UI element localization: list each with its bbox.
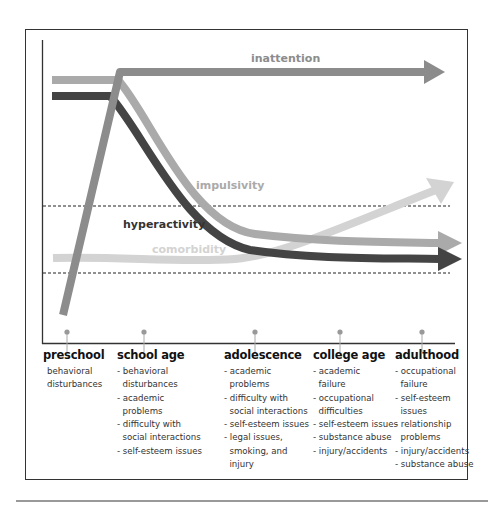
marker-adolescence — [252, 329, 257, 334]
stage-preschool: preschool behavioral disturbances — [43, 348, 105, 392]
stage-item: - injury/accidents — [395, 445, 473, 458]
stage-item: problems — [117, 405, 202, 418]
stage-item: - difficulty with — [224, 392, 309, 405]
stage-item: failure — [395, 378, 473, 391]
stage-item: problems — [224, 378, 309, 391]
stage-item: problems — [395, 431, 473, 444]
impulsivity-label: impulsivity — [196, 179, 264, 192]
stage-title: preschool — [43, 348, 105, 362]
stage-item: - self-esteem issues — [224, 418, 309, 431]
stage-title: adulthood — [395, 348, 473, 362]
stage-item: - relationship — [395, 418, 473, 431]
stage-item: - difficulty with — [117, 418, 202, 431]
stage-item: smoking, and — [224, 445, 309, 458]
bottom-divider — [16, 500, 488, 502]
stage-item: - academic — [224, 365, 309, 378]
stage-item: - occupational — [313, 392, 398, 405]
marker-preschool — [64, 329, 69, 334]
stage-item: disturbances — [117, 378, 202, 391]
stage-item: social interactions — [117, 431, 202, 444]
stage-item: - legal issues, — [224, 431, 309, 444]
comorbidity-label: comorbidity — [152, 243, 226, 256]
stage-item: - substance abuse — [313, 431, 398, 444]
stage-item: - substance abuse — [395, 458, 473, 471]
stage-item: - injury/accidents — [313, 445, 398, 458]
stage-title: adolescence — [224, 348, 309, 362]
stage-title: college age — [313, 348, 398, 362]
stage-item: social interactions — [224, 405, 309, 418]
hyperactivity-arrowhead — [438, 247, 462, 271]
stage-item: injury — [224, 458, 309, 471]
stage-item: issues — [395, 405, 473, 418]
stage-item: - academic — [117, 392, 202, 405]
inattention-label: inattention — [251, 52, 320, 65]
marker-adulthood — [419, 329, 424, 334]
stage-title: school age — [117, 348, 202, 362]
stage-school-age: school age - behavioral disturbances - a… — [117, 348, 202, 458]
stage-item: disturbances — [47, 378, 105, 391]
stage-item: - occupational — [395, 365, 473, 378]
stage-item: behavioral — [47, 365, 105, 378]
stage-item: - self-esteem issues — [117, 445, 202, 458]
hyperactivity-label: hyperactivity — [123, 218, 205, 231]
stage-adulthood: adulthood - occupational failure - self-… — [395, 348, 473, 471]
stage-adolescence: adolescence - academic problems - diffic… — [224, 348, 309, 471]
stage-item: - behavioral — [117, 365, 202, 378]
stage-college-age: college age - academic failure - occupat… — [313, 348, 398, 458]
stage-item: - self-esteem issues — [313, 418, 398, 431]
stage-item: - self-esteem — [395, 392, 473, 405]
inattention-arrowhead — [424, 60, 445, 84]
stage-item: difficulties — [313, 405, 398, 418]
stage-item: - academic — [313, 365, 398, 378]
marker-college-age — [337, 329, 342, 334]
marker-school-age — [141, 329, 146, 334]
stage-item: failure — [313, 378, 398, 391]
